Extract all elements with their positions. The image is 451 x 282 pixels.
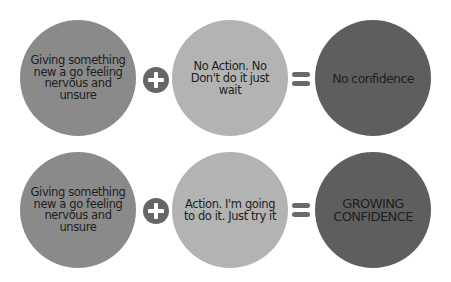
start-circle-row2: Giving something new a go feeling nervou… <box>20 152 136 268</box>
action-circle-row2: Action. I'm going to do it. Just try it <box>172 152 288 268</box>
action-text: Action. I'm going to do it. Just try it <box>182 198 278 222</box>
plus-icon <box>143 67 169 93</box>
action-text: No Action. No Don't do it just wait <box>182 60 278 96</box>
equals-icon <box>292 203 310 217</box>
result-text: GROWING CONFIDENCE <box>325 197 421 223</box>
result-text: No confidence <box>332 72 414 85</box>
equals-icon <box>292 72 310 86</box>
start-text: Giving something new a go feeling nervou… <box>30 55 126 101</box>
result-circle-row1: No confidence <box>315 20 431 136</box>
action-circle-row1: No Action. No Don't do it just wait <box>172 20 288 136</box>
result-circle-row2: GROWING CONFIDENCE <box>315 152 431 268</box>
plus-icon <box>143 198 169 224</box>
start-circle-row1: Giving something new a go feeling nervou… <box>20 20 136 136</box>
start-text: Giving something new a go feeling nervou… <box>30 187 126 233</box>
